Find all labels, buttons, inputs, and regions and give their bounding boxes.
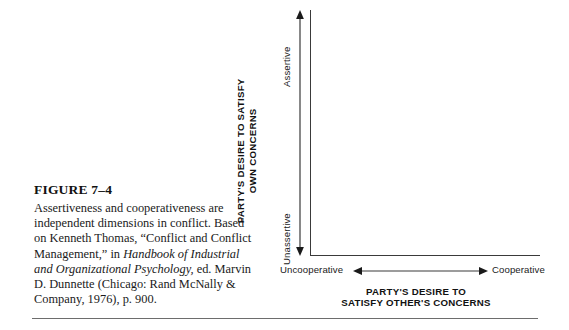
caption-line-9: Company, 1976), p. 900. bbox=[34, 292, 157, 306]
figure-caption-block: FIGURE 7–4 Assertiveness and cooperative… bbox=[34, 182, 252, 307]
caption-line-3: on Kenneth Thomas, “Conflict and Conflic… bbox=[34, 231, 251, 245]
x-axis-high-label: Cooperative bbox=[492, 264, 545, 275]
caption-line-8: D. Dunnette (Chicago: Rand McNally & bbox=[34, 277, 236, 291]
y-axis-high-label: Assertive bbox=[281, 47, 292, 87]
caption-italic-title-a: Handbook of Industrial bbox=[123, 247, 239, 261]
y-axis-title-line-2: OWN CONCERNS bbox=[246, 108, 257, 193]
bottom-separator-rule bbox=[32, 318, 538, 319]
conflict-handling-chart: Assertive Unassertive PARTY'S DESIRE TO … bbox=[240, 0, 569, 312]
y-axis-title-line-1: PARTY'S DESIRE TO SATISFY bbox=[235, 78, 246, 223]
caption-line-2: independent dimensions in conflict. Base… bbox=[34, 216, 244, 230]
x-axis-low-label: Uncooperative bbox=[280, 264, 343, 275]
x-axis-label-row: Uncooperative Cooperative bbox=[280, 264, 569, 278]
caption-line-1: Assertiveness and cooperativeness are bbox=[34, 201, 224, 215]
y-axis-low-label: Unassertive bbox=[281, 213, 292, 265]
caption-line-4: Management,” in bbox=[34, 247, 123, 261]
x-axis-title: PARTY'S DESIRE TO SATISFY OTHER'S CONCER… bbox=[292, 286, 540, 309]
x-axis-title-line-2: SATISFY OTHER'S CONCERNS bbox=[341, 297, 491, 308]
caption-italic-title-b: and Organizational Psychology, bbox=[34, 262, 194, 276]
plot-area bbox=[310, 10, 540, 256]
x-axis-title-line-1: PARTY'S DESIRE TO bbox=[366, 286, 466, 297]
y-axis-double-arrow-icon bbox=[293, 10, 307, 256]
y-axis-title: PARTY'S DESIRE TO SATISFY OWN CONCERNS bbox=[235, 78, 258, 223]
figure-caption-text: Assertiveness and cooperativeness are in… bbox=[34, 201, 252, 307]
x-axis-double-arrow-icon bbox=[353, 266, 488, 276]
figure-number-heading: FIGURE 7–4 bbox=[34, 182, 252, 198]
